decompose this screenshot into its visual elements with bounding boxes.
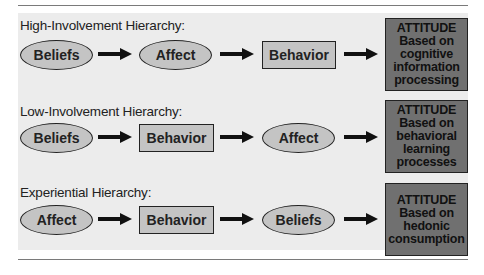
step-behavior: Behavior (139, 206, 214, 234)
arrow-right-icon (98, 48, 132, 60)
attitude-outcome: ATTITUDE Based on behavioral learning pr… (385, 100, 468, 173)
outcome-line: processes (396, 156, 456, 169)
step-behavior: Behavior (139, 124, 214, 152)
row-title: High-Involvement Hierarchy: (20, 18, 185, 33)
arrow-right-icon (98, 213, 132, 225)
attitude-outcome: ATTITUDE Based on hedonic consumption (385, 183, 468, 256)
row-title: Low-Involvement Hierarchy: (20, 104, 182, 119)
bottom-rule (18, 259, 468, 260)
step-affect: Affect (262, 123, 335, 153)
step-beliefs: Beliefs (262, 205, 335, 235)
outcome-line: ATTITUDE (397, 194, 456, 207)
arrow-right-icon (344, 213, 378, 225)
arrow-right-icon (220, 48, 254, 60)
step-affect: Affect (139, 40, 212, 70)
arrow-right-icon (220, 131, 254, 143)
attitude-outcome: ATTITUDE Based on cognitive information … (385, 18, 468, 91)
arrow-right-icon (344, 48, 378, 60)
step-beliefs: Beliefs (20, 123, 93, 153)
outcome-line: Based on (399, 207, 454, 220)
top-rule (18, 5, 468, 6)
arrow-right-icon (220, 213, 254, 225)
row-title: Experiential Hierarchy: (20, 185, 151, 200)
arrow-right-icon (98, 131, 132, 143)
outcome-line: processing (394, 74, 459, 87)
arrow-right-icon (344, 131, 378, 143)
step-behavior: Behavior (262, 41, 336, 69)
step-affect: Affect (20, 205, 93, 235)
step-beliefs: Beliefs (20, 40, 93, 70)
outcome-line: hedonic (403, 220, 450, 233)
outcome-line: consumption (388, 233, 464, 246)
